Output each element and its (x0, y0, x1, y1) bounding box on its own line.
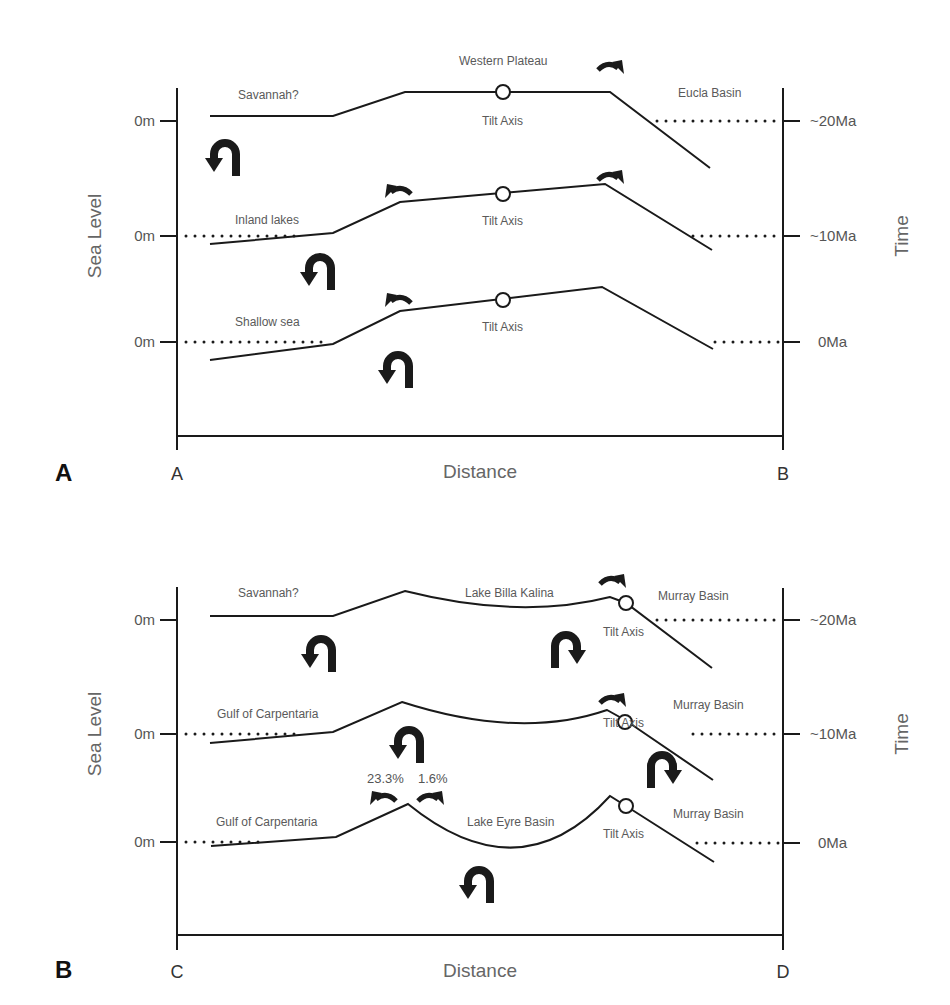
time-tick: ~20Ma (810, 112, 857, 129)
label-gulf-of-carpentaria: Gulf of Carpentaria (216, 815, 318, 829)
label-eucla-basin: Eucla Basin (678, 86, 741, 100)
label-western-plateau: Western Plateau (459, 54, 548, 68)
percentage-right: 1.6% (418, 771, 448, 786)
label-lake-eyre-basin: Lake Eyre Basin (467, 815, 554, 829)
panel-label: B (55, 956, 72, 983)
time-tick: 0Ma (818, 333, 848, 350)
axis-end-label: D (777, 962, 790, 982)
time-axis-title: Time (891, 713, 912, 755)
sea-level-axis-title: Sea Level (84, 194, 105, 279)
label-tilt-axis: Tilt Axis (603, 716, 644, 730)
tilt-axis-node (619, 799, 633, 813)
time-axis-title: Time (891, 215, 912, 257)
sea-level-tick: 0m (134, 112, 155, 129)
label-murray-basin: Murray Basin (673, 698, 744, 712)
label-savannah: Savannah? (238, 88, 299, 102)
label-tilt-axis: Tilt Axis (482, 214, 523, 228)
rotation-arrow-icon (385, 184, 411, 198)
time-tick: ~20Ma (810, 611, 857, 628)
u-turn-arrow-icon (389, 730, 420, 763)
label-tilt-axis: Tilt Axis (482, 114, 523, 128)
label-tilt-axis: Tilt Axis (603, 625, 644, 639)
u-turn-arrow-icon (459, 870, 490, 903)
rotation-arrow-icon (418, 791, 444, 805)
label-murray-basin: Murray Basin (658, 589, 729, 603)
u-turn-arrow-icon (205, 143, 236, 176)
u-turn-arrow-icon (301, 639, 332, 672)
tilt-axis-node (496, 293, 510, 307)
diagram-canvas: 0m 0m 0m ~20Ma ~10Ma 0Ma Sea Level Time … (0, 0, 950, 1005)
u-turn-arrow-icon (300, 257, 331, 290)
sea-level-axis-title: Sea Level (84, 692, 105, 777)
profile-20ma (210, 92, 710, 168)
sea-level-tick: 0m (134, 227, 155, 244)
time-tick: ~10Ma (810, 725, 857, 742)
percentage-left: 23.3% (367, 771, 404, 786)
panel-label: A (55, 459, 72, 486)
time-tick: 0Ma (818, 834, 848, 851)
rotation-arrow-icon (598, 170, 624, 184)
axis-start-label: C (171, 962, 184, 982)
label-gulf-of-carpentaria: Gulf of Carpentaria (217, 707, 319, 721)
time-tick: ~10Ma (810, 227, 857, 244)
label-murray-basin: Murray Basin (673, 807, 744, 821)
label-inland-lakes: Inland lakes (235, 213, 299, 227)
rotation-arrow-icon (385, 293, 411, 307)
tilt-axis-node (496, 85, 510, 99)
axis-end-label: B (777, 464, 789, 484)
u-turn-arrow-icon (651, 755, 682, 788)
rotation-arrow-icon (600, 574, 626, 588)
axis-start-label: A (171, 464, 183, 484)
label-savannah: Savannah? (238, 586, 299, 600)
panel-a: 0m 0m 0m ~20Ma ~10Ma 0Ma Sea Level Time … (55, 54, 912, 486)
sea-level-tick: 0m (134, 833, 155, 850)
sea-level-tick: 0m (134, 611, 155, 628)
sea-level-tick: 0m (134, 333, 155, 350)
distance-axis-title: Distance (443, 461, 517, 482)
tilt-axis-node (619, 596, 633, 610)
panel-b: 0m 0m 0m ~20Ma ~10Ma 0Ma Sea Level Time … (55, 574, 912, 983)
u-turn-arrow-icon (555, 635, 586, 668)
rotation-arrow-icon (598, 60, 624, 74)
sea-level-tick: 0m (134, 725, 155, 742)
tilt-axis-node (496, 187, 510, 201)
distance-axis-title: Distance (443, 960, 517, 981)
label-tilt-axis: Tilt Axis (603, 827, 644, 841)
label-lake-billa-kalina: Lake Billa Kalina (465, 586, 554, 600)
rotation-arrow-icon (600, 693, 626, 707)
rotation-arrow-icon (370, 791, 396, 805)
label-shallow-sea: Shallow sea (235, 315, 300, 329)
u-turn-arrow-icon (378, 355, 409, 388)
label-tilt-axis: Tilt Axis (482, 320, 523, 334)
